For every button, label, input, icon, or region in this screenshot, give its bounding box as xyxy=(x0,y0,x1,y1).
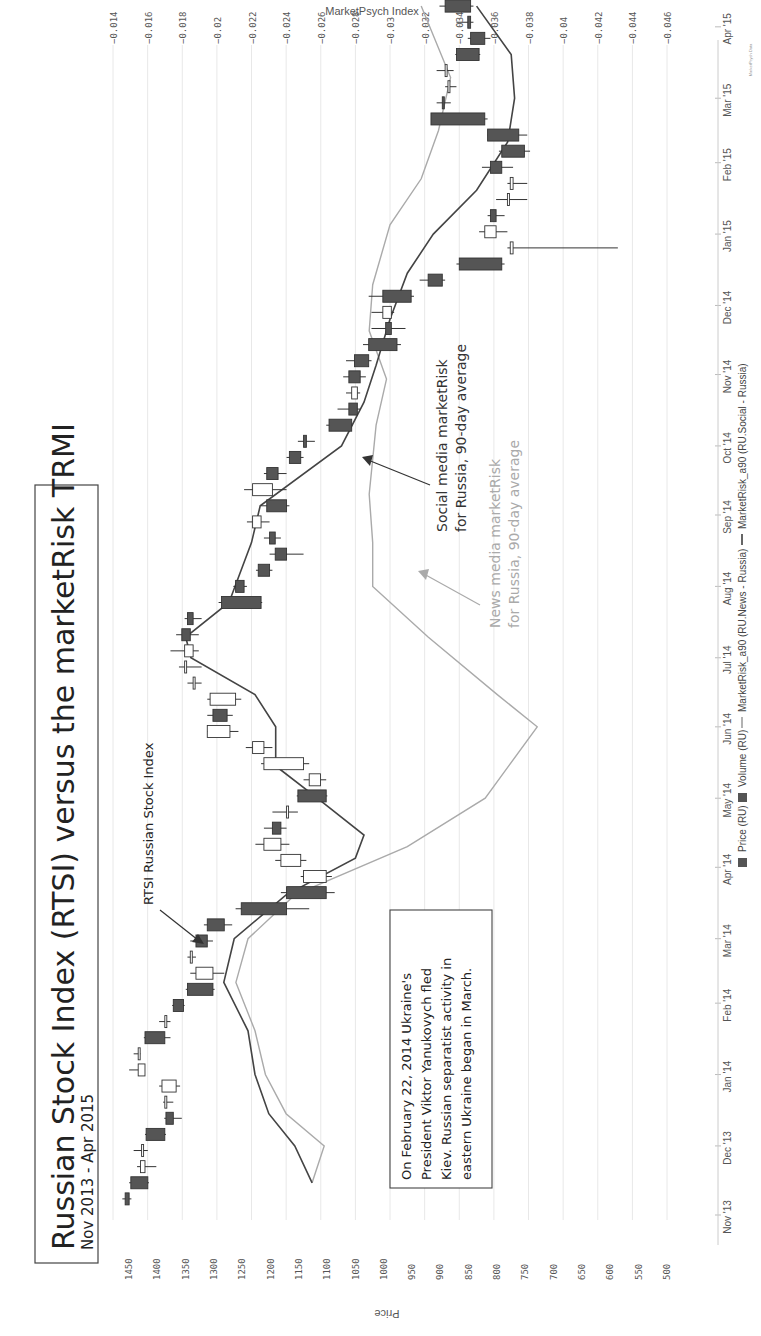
candle xyxy=(131,1177,148,1189)
chart-subtitle: Nov 2013 - Apr 2015 xyxy=(79,1094,97,1250)
rtsi-arrow xyxy=(160,910,198,940)
candle xyxy=(182,629,190,641)
social-annotation-line2: for Russia, 90-day average xyxy=(453,344,469,532)
candle xyxy=(281,854,301,866)
candle xyxy=(442,97,444,109)
candle xyxy=(241,903,286,915)
price-tick-label: 1050 xyxy=(351,1258,361,1280)
candle xyxy=(383,306,391,318)
candle xyxy=(304,435,307,447)
candle xyxy=(287,887,327,899)
event-annotation-box: On February 22, 2014 Ukraine's President… xyxy=(390,910,492,1188)
price-tick-label: 1150 xyxy=(294,1258,304,1280)
price-tick-label: 1000 xyxy=(379,1258,389,1280)
price-axis-title: Price xyxy=(374,1308,399,1320)
candle xyxy=(287,806,289,818)
date-tick-label: Dec '13 xyxy=(722,1131,733,1165)
candle xyxy=(264,838,281,850)
price-tick-label: 650 xyxy=(577,1264,587,1280)
date-tick-label: Nov '14 xyxy=(722,359,733,393)
date-tick-label: Mar '15 xyxy=(722,83,733,116)
candle xyxy=(187,613,193,625)
candle xyxy=(428,274,442,286)
candle xyxy=(485,226,496,238)
candle xyxy=(185,661,187,673)
candle xyxy=(507,194,509,206)
watermark: MarketPsych Data xyxy=(748,43,753,76)
candle xyxy=(221,597,261,609)
legend-news-label: MarketRisk_a90 (RU.News - Russia) xyxy=(737,549,748,712)
price-tick-label: 1350 xyxy=(181,1258,191,1280)
date-tick-label: Apr '14 xyxy=(722,853,733,885)
date-tick-label: Jun '14 xyxy=(722,712,733,744)
date-tick-label: Apr '15 xyxy=(722,13,733,45)
date-tick-label: Aug '14 xyxy=(722,571,733,605)
date-tick-label: Feb '14 xyxy=(722,988,733,1021)
candle xyxy=(329,419,352,431)
price-tick-label: 750 xyxy=(520,1264,530,1280)
event-text-line2: President Viktor Yanukovych fled xyxy=(419,968,434,1180)
candle xyxy=(445,65,447,77)
news-annotation-line1: News media marketRisk xyxy=(487,458,503,628)
index-tick-label: −0.034 xyxy=(455,11,465,44)
legend-volume-label: Volume (RU) xyxy=(737,730,748,787)
legend-volume-swatch xyxy=(738,793,747,802)
candle xyxy=(298,790,326,802)
date-tick-label: Jan '15 xyxy=(722,220,733,252)
candle xyxy=(445,0,470,12)
index-tick-label: −0.042 xyxy=(594,11,604,44)
candle xyxy=(275,548,286,560)
legend-price-swatch xyxy=(738,858,747,867)
candle xyxy=(253,484,273,496)
price-tick-label: 1200 xyxy=(266,1258,276,1280)
date-tick-label: Sep '14 xyxy=(722,500,733,534)
candle xyxy=(146,1128,165,1140)
price-tick-label: 1400 xyxy=(152,1258,162,1280)
candle xyxy=(349,403,357,415)
candle xyxy=(196,967,213,979)
index-tick-label: −0.018 xyxy=(178,11,188,44)
marketpsych-axis-title: MarketPsych Index xyxy=(325,5,419,17)
candle xyxy=(369,339,397,351)
candle xyxy=(207,725,230,737)
index-tick-label: −0.022 xyxy=(248,11,258,44)
index-tick-label: −0.046 xyxy=(663,11,673,44)
candle xyxy=(253,516,261,528)
candle xyxy=(142,1145,144,1157)
index-tick-label: −0.014 xyxy=(109,11,119,44)
candle xyxy=(448,81,450,93)
index-tick-label: −0.02 xyxy=(213,17,223,44)
candle xyxy=(352,387,358,399)
price-tick-label: 950 xyxy=(407,1264,417,1280)
candle xyxy=(490,210,496,222)
news-arrow xyxy=(424,574,480,605)
candle xyxy=(459,258,501,270)
chart-canvas: −0.014−0.016−0.018−0.02−0.022−0.024−0.02… xyxy=(0,0,761,1336)
date-tick-label: Dec '14 xyxy=(722,290,733,324)
news-annotation-line2: for Russia, 90-day average xyxy=(506,440,522,628)
legend-price-label: Price (RU) xyxy=(737,805,748,852)
legend-social-label: MarketRisk_a90 (RU.Social - Russia) xyxy=(737,363,748,529)
index-tick-label: −0.016 xyxy=(144,11,154,44)
date-tick-label: May '14 xyxy=(722,782,733,817)
candle xyxy=(456,48,479,60)
candle xyxy=(272,822,280,834)
candle xyxy=(145,1032,165,1044)
price-tick-label: 700 xyxy=(549,1264,559,1280)
candle xyxy=(468,16,471,28)
date-tick-label: Nov '13 xyxy=(722,1200,733,1234)
candle xyxy=(289,451,300,463)
candle xyxy=(193,677,195,689)
news-arrow-head xyxy=(418,569,429,580)
social-arrow-head xyxy=(362,455,373,466)
candle xyxy=(236,580,244,592)
candle xyxy=(253,742,264,754)
legend: Price (RU) Volume (RU) MarketRisk_a90 (R… xyxy=(737,363,748,867)
chart-title: Russian Stock Index (RTSI) versus the ma… xyxy=(46,423,81,1250)
index-tick-label: −0.024 xyxy=(282,11,292,44)
candle xyxy=(125,1193,129,1205)
candle xyxy=(185,645,193,657)
title-box: Russian Stock Index (RTSI) versus the ma… xyxy=(35,423,98,1263)
rtsi-candlesticks xyxy=(122,0,618,1205)
price-tick-label: 1250 xyxy=(237,1258,247,1280)
